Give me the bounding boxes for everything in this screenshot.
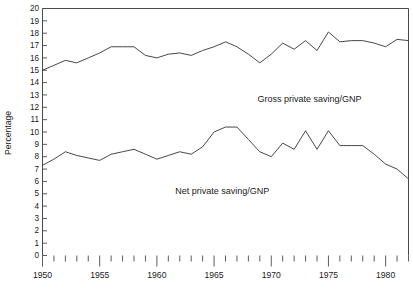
data-series-group: [43, 32, 409, 179]
chart-figure: 01234567891011121314151617181920 1950195…: [0, 0, 413, 303]
y-tick-label-16: 16: [30, 54, 40, 63]
plot-frame: [43, 9, 409, 256]
series-annotations: Gross private saving/GNPNet private savi…: [175, 94, 361, 195]
annotation-net-private-saving: Net private saving/GNP: [175, 186, 269, 196]
y-tick-label-19: 19: [30, 17, 40, 26]
y-axis-title: Percentage: [3, 111, 13, 155]
y-tick-label-6: 6: [34, 177, 39, 186]
x-tick-label-1980: 1980: [376, 270, 395, 280]
y-tick-label-12: 12: [30, 103, 40, 112]
series-line-net-private-saving: [43, 127, 409, 179]
x-tick-label-1950: 1950: [33, 270, 52, 280]
y-axis-tick-marks: [43, 9, 48, 256]
x-axis-tick-labels: 1950195519601965197019751980: [33, 270, 395, 280]
y-tick-label-4: 4: [34, 202, 39, 211]
y-tick-label-9: 9: [34, 140, 39, 149]
axis-frame: [43, 9, 409, 256]
y-tick-label-18: 18: [30, 29, 40, 38]
y-tick-label-2: 2: [34, 226, 39, 235]
x-axis-tick-marks: [43, 256, 409, 267]
y-axis-title-group: Percentage: [3, 111, 13, 155]
y-tick-label-14: 14: [30, 78, 40, 87]
x-tick-label-1975: 1975: [319, 270, 338, 280]
y-tick-label-15: 15: [30, 66, 40, 75]
line-chart-canvas: 01234567891011121314151617181920 1950195…: [0, 0, 413, 303]
y-tick-label-5: 5: [34, 189, 39, 198]
y-tick-label-10: 10: [30, 128, 40, 137]
y-tick-label-1: 1: [34, 239, 39, 248]
y-tick-label-0: 0: [34, 251, 39, 260]
series-line-gross-private-saving: [43, 32, 409, 70]
y-axis-tick-labels: 01234567891011121314151617181920: [30, 4, 40, 260]
x-tick-label-1965: 1965: [205, 270, 224, 280]
y-tick-label-3: 3: [34, 214, 39, 223]
y-tick-label-7: 7: [34, 165, 39, 174]
x-tick-label-1970: 1970: [262, 270, 281, 280]
x-tick-label-1960: 1960: [147, 270, 166, 280]
y-tick-label-8: 8: [34, 152, 39, 161]
y-tick-label-13: 13: [30, 91, 40, 100]
y-tick-label-20: 20: [30, 4, 40, 13]
y-tick-label-17: 17: [30, 41, 40, 50]
y-tick-label-11: 11: [31, 115, 40, 124]
annotation-gross-private-saving: Gross private saving/GNP: [258, 94, 362, 104]
x-tick-label-1955: 1955: [90, 270, 109, 280]
